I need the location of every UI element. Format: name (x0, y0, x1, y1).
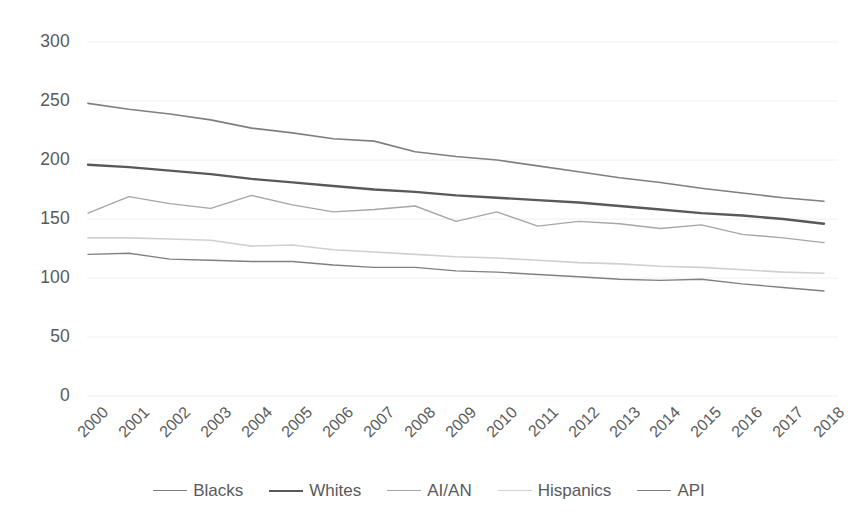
series-line-api (88, 253, 824, 291)
legend-item-ai-an[interactable]: AI/AN (387, 482, 471, 499)
y-axis-tick-label: 150 (40, 210, 70, 228)
legend-label: API (677, 482, 704, 499)
legend-swatch-line-icon (637, 490, 671, 491)
y-axis-tick-label: 300 (40, 33, 70, 51)
legend-swatch-line-icon (387, 490, 421, 491)
series-line-blacks (88, 103, 824, 201)
legend-label: AI/AN (427, 482, 471, 499)
legend-swatch-line-icon (153, 490, 187, 491)
chart-legend: BlacksWhitesAI/ANHispanicsAPI (0, 482, 858, 499)
y-axis-tick-label: 200 (40, 151, 70, 169)
gridlines (87, 42, 838, 396)
series-lines (88, 103, 824, 291)
y-axis-tick-label: 50 (50, 328, 70, 346)
y-axis-tick-label: 0 (60, 387, 70, 405)
legend-item-api[interactable]: API (637, 482, 704, 499)
legend-label: Whites (309, 482, 361, 499)
series-line-whites (88, 165, 824, 224)
legend-item-blacks[interactable]: Blacks (153, 482, 243, 499)
legend-swatch-line-icon (269, 490, 303, 492)
legend-label: Hispanics (538, 482, 612, 499)
line-chart: 300250200150100500 200020012002200320042… (0, 0, 858, 528)
legend-label: Blacks (193, 482, 243, 499)
legend-item-whites[interactable]: Whites (269, 482, 361, 499)
legend-swatch-line-icon (498, 490, 532, 491)
y-axis-tick-label: 100 (40, 269, 70, 287)
legend-item-hispanics[interactable]: Hispanics (498, 482, 612, 499)
y-axis-tick-label: 250 (40, 92, 70, 110)
series-line-hispanics (88, 238, 824, 273)
